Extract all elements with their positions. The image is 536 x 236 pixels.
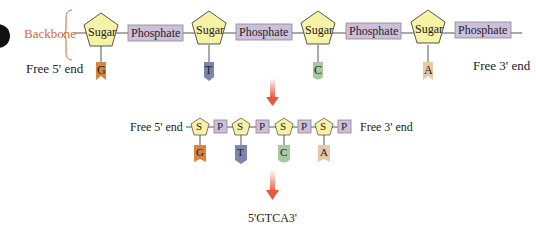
phosphate-abbrev: P	[217, 120, 223, 132]
base-G: G	[97, 63, 106, 78]
free-3-end-label: Free 3' end	[360, 120, 413, 135]
arrow-down-icon	[266, 97, 279, 106]
sugar-label: Sugar	[305, 23, 333, 38]
base-A: A	[320, 146, 328, 158]
sugar-abbrev: S	[237, 120, 243, 132]
base-A: A	[424, 63, 433, 78]
arrow-down-icon	[266, 190, 279, 200]
free-5-end-label: Free 5' end	[26, 61, 83, 77]
backbone-label: Backbone	[24, 26, 76, 42]
phosphate-label: Phosphate	[239, 25, 288, 40]
sequence-label: 5'GTCA3'	[248, 211, 297, 226]
phosphate-label: Phosphate	[349, 24, 398, 39]
phosphate-abbrev: P	[301, 120, 307, 132]
phosphate-label: Phosphate	[458, 23, 507, 38]
phosphate-label: Phosphate	[131, 26, 180, 41]
sugar-abbrev: S	[320, 120, 326, 132]
sugar-label: Sugar	[415, 22, 443, 37]
base-C: C	[314, 63, 322, 78]
sugar-abbrev: S	[196, 120, 202, 132]
base-T: T	[205, 63, 212, 78]
base-G: G	[196, 146, 204, 158]
edge-circle-decor	[0, 24, 10, 48]
sugar-label: Sugar	[196, 23, 224, 38]
free-5-end-label: Free 5' end	[130, 120, 183, 135]
sugar-label: Sugar	[88, 25, 116, 40]
free-3-end-label: Free 3' end	[473, 58, 530, 74]
base-C: C	[280, 146, 287, 158]
sugar-abbrev: S	[280, 120, 286, 132]
phosphate-abbrev: P	[341, 120, 347, 132]
phosphate-abbrev: P	[259, 120, 265, 132]
base-T: T	[237, 146, 244, 158]
